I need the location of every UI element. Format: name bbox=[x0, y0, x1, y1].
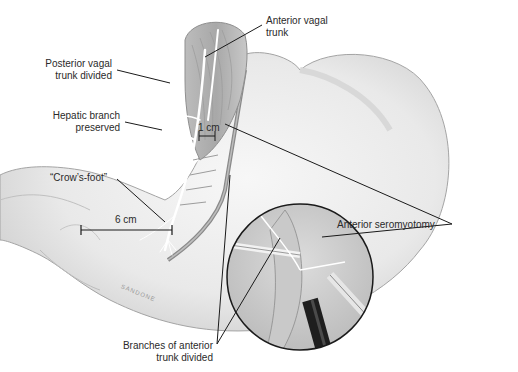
label-anterior-seromyotomy: Anterior seromyotomy bbox=[337, 219, 435, 231]
label-hepatic-branch-preserved: Hepatic branch preserved bbox=[20, 110, 120, 134]
label-anterior-vagal-trunk: Anterior vagal trunk bbox=[266, 15, 328, 39]
surgical-illustration: Posterior vagal trunk divided Anterior v… bbox=[0, 0, 518, 372]
label-posterior-vagal-trunk-divided: Posterior vagal trunk divided bbox=[20, 58, 112, 82]
scale-label-6cm: 6 cm bbox=[115, 214, 137, 225]
label-crows-foot: “Crow’s-foot” bbox=[50, 172, 107, 184]
scale-label-1cm: 1 cm bbox=[198, 122, 220, 133]
label-branches-anterior-trunk-divided: Branches of anterior trunk divided bbox=[100, 340, 213, 364]
stomach-drawing bbox=[0, 0, 518, 372]
